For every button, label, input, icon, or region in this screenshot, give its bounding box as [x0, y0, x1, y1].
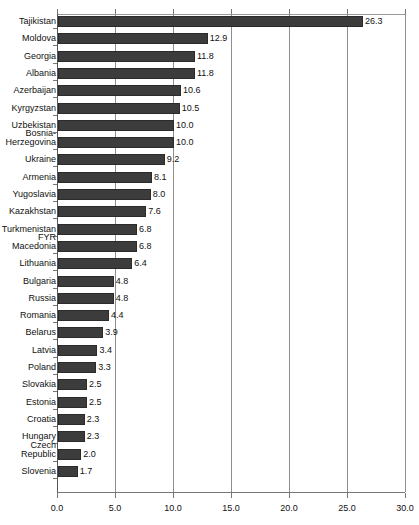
- bar-row: Slovakia2.5: [0, 377, 419, 394]
- x-tick-label: 20.0: [280, 503, 298, 513]
- category-label: Ukraine: [0, 152, 56, 164]
- category-tick: [53, 357, 57, 358]
- bar-row: Belarus3.9: [0, 325, 419, 342]
- bar-row: Ukraine9.2: [0, 152, 419, 169]
- category-tick: [53, 115, 57, 116]
- bar-value-label: 6.4: [134, 259, 147, 268]
- x-tick-label: 15.0: [222, 503, 240, 513]
- bar-row: Kazakhstan7.6: [0, 204, 419, 221]
- bar-row: Poland3.3: [0, 360, 419, 377]
- category-label: Azerbaijan: [0, 83, 56, 95]
- bar-value-label: 4.4: [111, 311, 124, 320]
- category-tick: [53, 184, 57, 185]
- bar-row: Armenia8.1: [0, 170, 419, 187]
- category-label: Kazakhstan: [0, 204, 56, 216]
- category-label: Bosnia- Herzegovina: [0, 129, 56, 147]
- bar-row: Yugoslavia8.0: [0, 187, 419, 204]
- bar: [58, 310, 109, 321]
- category-tick: [53, 391, 57, 392]
- bar-value-label: 2.0: [83, 450, 96, 459]
- bar: [58, 345, 97, 356]
- bar: [58, 397, 87, 408]
- bar-row: Bosnia- Herzegovina10.0: [0, 135, 419, 152]
- bar-row: Croatia2.3: [0, 412, 419, 429]
- category-label: Tajikistan: [0, 14, 56, 26]
- bar: [58, 154, 165, 165]
- category-label: Latvia: [0, 343, 56, 355]
- x-tick-bottom: [57, 493, 58, 498]
- category-tick: [53, 339, 57, 340]
- category-tick: [53, 461, 57, 462]
- bar: [58, 33, 208, 44]
- category-tick: [53, 270, 57, 271]
- bar-value-label: 2.3: [87, 415, 100, 424]
- bar-row: Russia4.8: [0, 291, 419, 308]
- bar-value-label: 2.5: [89, 380, 102, 389]
- category-label: Georgia: [0, 49, 56, 61]
- bar-row: Bulgaria4.8: [0, 274, 419, 291]
- bar-value-label: 12.9: [210, 34, 228, 43]
- category-label: Poland: [0, 360, 56, 372]
- bar-value-label: 7.6: [148, 207, 161, 216]
- bar-value-label: 10.0: [176, 138, 194, 147]
- category-label: Yugoslavia: [0, 187, 56, 199]
- category-tick: [53, 253, 57, 254]
- bar-value-label: 4.8: [116, 277, 129, 286]
- category-label: Albania: [0, 66, 56, 78]
- category-label: Bulgaria: [0, 274, 56, 286]
- bar-row: Moldova12.9: [0, 31, 419, 48]
- bar: [58, 241, 137, 252]
- category-tick: [53, 322, 57, 323]
- bar: [58, 68, 195, 79]
- bar-row: Hungary2.3: [0, 429, 419, 446]
- bar-value-label: 3.9: [105, 328, 118, 337]
- bar: [58, 466, 78, 477]
- category-label: Armenia: [0, 170, 56, 182]
- category-tick: [53, 28, 57, 29]
- category-tick: [53, 97, 57, 98]
- category-tick: [53, 409, 57, 410]
- x-tick-bottom: [115, 493, 116, 498]
- bar-value-label: 9.2: [167, 155, 180, 164]
- bar: [58, 379, 87, 390]
- bar-chart: 0.05.010.015.020.025.030.0 Tajikistan26.…: [0, 0, 419, 525]
- bar-row: Tajikistan26.3: [0, 14, 419, 31]
- bar: [58, 224, 137, 235]
- x-tick-bottom: [231, 493, 232, 498]
- category-tick: [53, 374, 57, 375]
- bar-value-label: 2.3: [87, 432, 100, 441]
- x-tick-bottom: [173, 493, 174, 498]
- bar-value-label: 10.0: [176, 121, 194, 130]
- bar: [58, 120, 174, 131]
- bar-row: Slovenia1.7: [0, 464, 419, 481]
- bar: [58, 276, 114, 287]
- category-label: Croatia: [0, 412, 56, 424]
- category-label: Lithuania: [0, 256, 56, 268]
- bar-value-label: 3.4: [99, 346, 112, 355]
- bar-row: Albania11.8: [0, 66, 419, 83]
- bar-value-label: 8.1: [154, 173, 167, 182]
- bar: [58, 16, 363, 27]
- bar-value-label: 26.3: [365, 17, 383, 26]
- bar-value-label: 11.8: [197, 69, 214, 78]
- bar-row: Czech Republic2.0: [0, 447, 419, 464]
- bar-row: Kyrgyzstan10.5: [0, 101, 419, 118]
- bar-row: Romania4.4: [0, 308, 419, 325]
- category-tick: [53, 149, 57, 150]
- x-tick-label: 10.0: [164, 503, 182, 513]
- category-label: Slovenia: [0, 464, 56, 476]
- category-tick: [53, 426, 57, 427]
- category-tick: [53, 288, 57, 289]
- category-label: Romania: [0, 308, 56, 320]
- category-tick: [53, 478, 57, 479]
- bar: [58, 85, 181, 96]
- category-label: Moldova: [0, 31, 56, 43]
- x-tick-label: 30.0: [396, 503, 414, 513]
- bar: [58, 189, 151, 200]
- x-tick-bottom: [289, 493, 290, 498]
- bar-row: Uzbekistan10.0: [0, 118, 419, 135]
- category-label: Estonia: [0, 395, 56, 407]
- bar-value-label: 6.8: [139, 225, 152, 234]
- bar-value-label: 3.3: [98, 363, 111, 372]
- bar-row: Lithuania6.4: [0, 256, 419, 273]
